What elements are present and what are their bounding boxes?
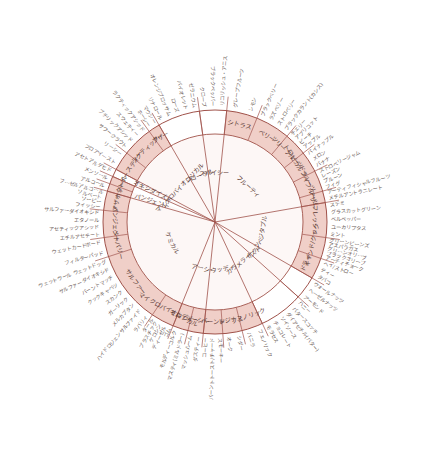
aroma-term: オーク (226, 337, 234, 353)
aroma-term: ゼラニウム (188, 82, 199, 108)
aroma-term: コーヒー (201, 337, 208, 357)
divider-line (227, 97, 228, 111)
aroma-term: エタノール (74, 216, 99, 223)
aroma-term: バニラ (246, 332, 256, 348)
aroma-term: リコリッシュ・アニス (219, 56, 228, 106)
aroma-term: レモン (247, 96, 257, 112)
aroma-term: グレープフルーツ (231, 68, 246, 109)
aroma-term: スモーキー (217, 338, 224, 363)
aroma-term: ブラックペッパー (210, 66, 218, 106)
aroma-term: バーントトースト/チャード (208, 338, 215, 400)
aroma-term: ベルペッパー (331, 216, 361, 223)
category-label: スパイシー (199, 169, 229, 177)
aroma-wheel: グレープフルーツレモンシトラスブラックベリーラズベリーストロベリーブラックカラン… (0, 0, 428, 456)
aroma-term: ユーカリプタス (331, 223, 366, 232)
aroma-term: クローブ (199, 86, 208, 107)
